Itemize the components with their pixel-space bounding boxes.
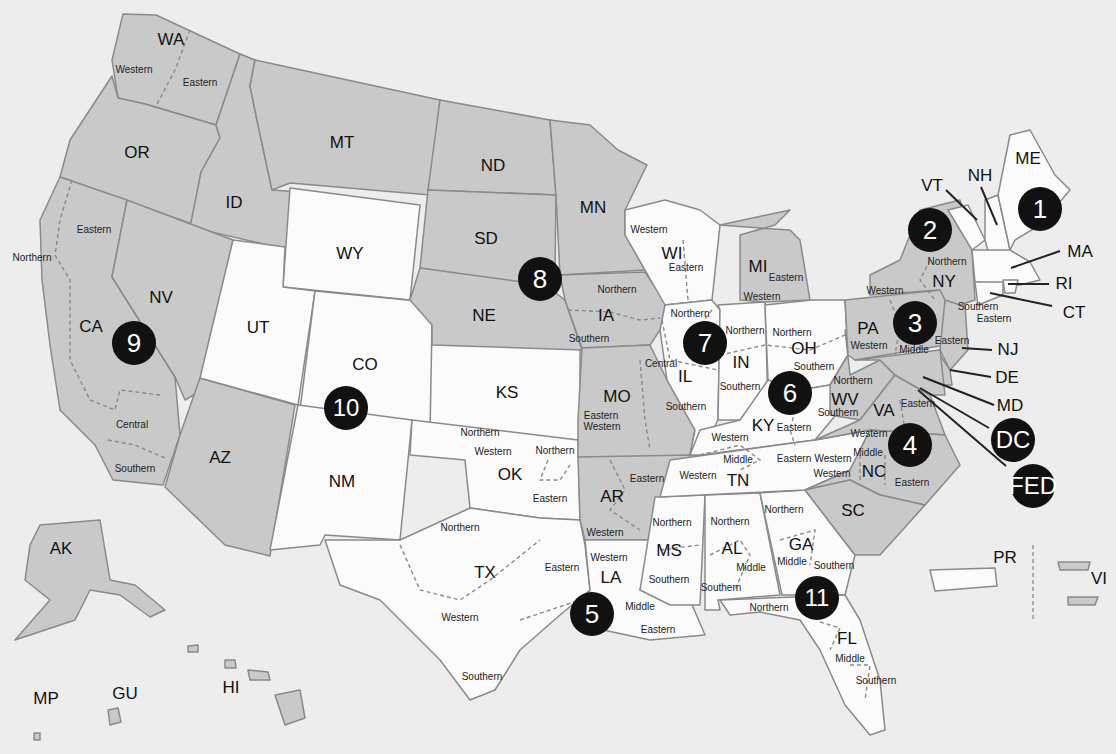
district-label: Southern	[818, 407, 859, 418]
district-label: Middle	[777, 556, 806, 567]
district-label: Western	[586, 527, 623, 538]
district-label: Northern	[13, 252, 52, 263]
district-label: Eastern	[977, 313, 1011, 324]
state-label-vt: VT	[921, 176, 943, 196]
district-label: Eastern	[777, 422, 811, 433]
state-label-ny: NY	[932, 272, 956, 292]
circuit-badge-1[interactable]: 1	[1018, 187, 1062, 231]
state-gu[interactable]	[108, 708, 121, 725]
state-label-oh: OH	[791, 339, 817, 359]
district-label: Western	[743, 291, 780, 302]
state-label-ks: KS	[496, 383, 519, 403]
state-label-fl: FL	[837, 629, 857, 649]
circuit-badge-fed[interactable]: FED	[1011, 464, 1055, 508]
state-label-ky: KY	[752, 416, 775, 436]
district-label: Western	[630, 224, 667, 235]
district-label: Northern	[461, 427, 500, 438]
state-label-va: VA	[873, 401, 894, 421]
state-label-ca: CA	[79, 317, 103, 337]
district-label: Western	[814, 453, 851, 464]
state-mt[interactable]	[250, 60, 440, 195]
circuit-badge-5[interactable]: 5	[570, 592, 614, 636]
district-label: Southern	[794, 361, 835, 372]
district-label: Eastern	[630, 473, 664, 484]
district-label: Eastern	[895, 477, 929, 488]
district-label: Northern	[598, 284, 637, 295]
state-label-ga: GA	[789, 535, 814, 555]
district-label: Middle	[899, 344, 928, 355]
circuit-badge-2[interactable]: 2	[908, 208, 952, 252]
district-label: Southern	[462, 671, 503, 682]
state-label-ut: UT	[247, 318, 270, 338]
district-label: Eastern	[901, 398, 935, 409]
district-label: Central	[116, 419, 148, 430]
state-label-tn: TN	[727, 471, 750, 491]
circuit-badge-dc[interactable]: DC	[991, 418, 1035, 462]
district-label: Eastern	[777, 453, 811, 464]
state-label-wa: WA	[158, 30, 185, 50]
state-label-mi: MI	[749, 257, 768, 277]
state-label-la: LA	[601, 568, 622, 588]
district-label: Eastern	[77, 224, 111, 235]
state-label-sd: SD	[474, 229, 498, 249]
state-label-gu: GU	[112, 684, 138, 704]
district-label: Southern	[115, 463, 156, 474]
state-label-nc: NC	[862, 462, 887, 482]
circuit-badge-7[interactable]: 7	[683, 321, 727, 365]
district-label: Eastern	[183, 77, 217, 88]
state-label-sc: SC	[841, 501, 865, 521]
district-label: Northern	[653, 517, 692, 528]
district-label: Northern	[928, 256, 967, 267]
state-hi[interactable]	[275, 690, 305, 725]
state-label-il: IL	[678, 367, 692, 387]
district-label: Middle	[723, 454, 752, 465]
state-label-co: CO	[352, 355, 378, 375]
state-label-or: OR	[124, 143, 150, 163]
circuit-badge-4[interactable]: 4	[888, 423, 932, 467]
district-label: Western	[441, 612, 478, 623]
state-label-nv: NV	[149, 288, 173, 308]
state-ak[interactable]	[15, 520, 165, 640]
state-label-ne: NE	[472, 306, 496, 326]
district-label: Eastern	[584, 410, 618, 421]
state-label-ak: AK	[50, 539, 73, 559]
state-label-tx: TX	[474, 563, 496, 583]
state-label-ok: OK	[498, 465, 523, 485]
district-label: Middle	[853, 447, 882, 458]
state-label-al: AL	[722, 539, 743, 559]
state-label-ri: RI	[1056, 274, 1073, 294]
state-ri[interactable]	[1003, 280, 1018, 293]
district-label: Western	[866, 285, 903, 296]
state-label-az: AZ	[209, 448, 231, 468]
state-label-nj: NJ	[998, 340, 1019, 360]
circuit-badge-3[interactable]: 3	[893, 301, 937, 345]
state-label-mo: MO	[603, 387, 630, 407]
circuit-badge-11[interactable]: 11	[795, 576, 839, 620]
state-label-mn: MN	[580, 198, 606, 218]
circuit-badge-10[interactable]: 10	[324, 386, 368, 430]
state-label-me: ME	[1015, 149, 1041, 169]
district-label: Western	[711, 432, 748, 443]
district-label: Northern	[834, 375, 873, 386]
island-hi-4	[188, 645, 198, 652]
circuit-badge-8[interactable]: 8	[518, 257, 562, 301]
district-label: Northern	[441, 522, 480, 533]
state-mi[interactable]	[720, 210, 810, 302]
circuit-badge-6[interactable]: 6	[768, 371, 812, 415]
circuit-badge-9[interactable]: 9	[112, 321, 156, 365]
state-label-md: MD	[997, 396, 1023, 416]
district-label: Southern	[701, 582, 742, 593]
state-pr[interactable]	[930, 568, 997, 591]
state-label-pr: PR	[993, 548, 1017, 568]
state-label-de: DE	[995, 368, 1019, 388]
district-label: Northern	[536, 445, 575, 456]
district-label: Middle	[625, 601, 654, 612]
state-nd[interactable]	[428, 100, 556, 195]
state-label-ma: MA	[1067, 242, 1093, 262]
district-label: Middle	[835, 653, 864, 664]
district-label: Southern	[958, 301, 999, 312]
district-label: Western	[115, 64, 152, 75]
state-label-wy: WY	[336, 244, 363, 264]
district-label: Northern	[671, 308, 710, 319]
district-label: Southern	[569, 333, 610, 344]
